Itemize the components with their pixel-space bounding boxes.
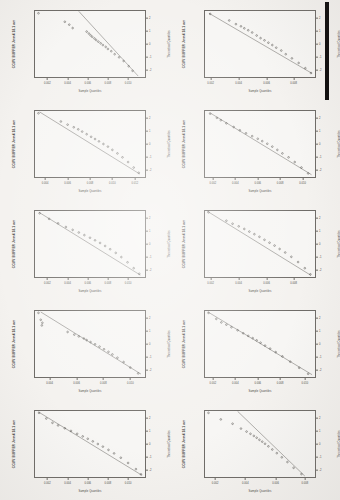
data-point xyxy=(89,237,91,239)
x-tick-label: 0.004 xyxy=(232,382,239,385)
data-point xyxy=(108,449,110,451)
reference-line xyxy=(38,412,142,475)
y-tick-label: 2 xyxy=(319,216,321,219)
data-point xyxy=(115,252,117,254)
y-tick-mark xyxy=(316,244,318,245)
data-point xyxy=(103,348,105,350)
x-tick-label: 0.008 xyxy=(105,482,112,485)
plot-data-layer xyxy=(34,110,146,178)
y-tick-label: -1 xyxy=(149,356,151,359)
data-point xyxy=(112,149,114,151)
x-tick-mark xyxy=(108,478,109,480)
data-point xyxy=(261,140,263,142)
data-point xyxy=(65,226,67,228)
y-tick-label: -2 xyxy=(319,369,321,372)
data-point xyxy=(277,149,279,151)
y-tick-label: 1 xyxy=(149,229,151,232)
data-point xyxy=(105,46,107,48)
x-tick-label: 0.002 xyxy=(212,482,219,485)
y-tick-mark xyxy=(146,444,148,445)
data-point xyxy=(268,42,270,44)
x-tick-mark xyxy=(266,78,267,80)
x-axis-label: Sample Quantiles xyxy=(34,90,146,93)
qq-plot-panel: CCMV BUFFER Jmm4 18.1 nmTheoretical Quan… xyxy=(0,300,170,400)
data-point xyxy=(271,146,273,148)
data-point xyxy=(99,346,101,348)
x-tick-label: 0.002 xyxy=(207,82,214,85)
x-tick-mark xyxy=(47,478,48,480)
y-tick-label: 2 xyxy=(319,116,321,119)
x-axis-label: Sample Quantiles xyxy=(34,390,146,393)
data-point xyxy=(70,430,72,432)
plot-data-layer xyxy=(204,110,316,178)
x-tick-label: 0.002 xyxy=(207,282,214,285)
data-point xyxy=(260,37,262,39)
plot-data-layer xyxy=(34,210,146,278)
y-tick-label: 2 xyxy=(319,316,321,319)
data-point xyxy=(41,325,43,327)
data-point xyxy=(276,452,278,454)
reference-line xyxy=(39,212,140,275)
y-tick-mark xyxy=(316,157,318,158)
y-tick-mark xyxy=(316,70,318,71)
data-point xyxy=(72,229,74,231)
y-tick-label: -2 xyxy=(319,169,321,172)
data-point xyxy=(84,234,86,236)
y-tick-label: 1 xyxy=(319,129,321,132)
y-tick-mark xyxy=(316,357,318,358)
data-point xyxy=(264,39,266,41)
y-tick-mark xyxy=(316,18,318,19)
y-tick-label: -1 xyxy=(319,356,321,359)
data-point xyxy=(226,220,228,222)
black-scan-bar xyxy=(325,2,329,100)
x-tick-mark xyxy=(235,378,236,380)
y-tick-mark xyxy=(316,444,318,445)
data-point xyxy=(91,36,93,38)
x-tick-mark xyxy=(130,378,131,380)
x-tick-label: 0.002 xyxy=(44,482,51,485)
scanned-figure-page: CCMV BUFFER Jmm4 18.1 nmTheoretical Quan… xyxy=(0,0,340,500)
data-point xyxy=(133,267,135,269)
data-point xyxy=(282,153,284,155)
data-point xyxy=(97,443,99,445)
data-point xyxy=(235,23,237,25)
plot-data-layer xyxy=(204,10,316,78)
x-tick-mark xyxy=(128,478,129,480)
x-tick-mark xyxy=(213,178,214,180)
data-point xyxy=(110,50,112,52)
y-tick-label: -2 xyxy=(149,469,151,472)
x-tick-mark xyxy=(304,378,305,380)
data-point xyxy=(254,233,256,235)
y-tick-label: 1 xyxy=(149,29,151,32)
x-tick-mark xyxy=(128,278,129,280)
data-point xyxy=(38,312,40,314)
data-point xyxy=(90,136,92,138)
data-point xyxy=(122,156,124,158)
data-point xyxy=(261,441,263,443)
x-tick-label: 0.004 xyxy=(235,82,242,85)
x-tick-label: 0.006 xyxy=(84,482,91,485)
data-point xyxy=(284,252,286,254)
x-tick-mark xyxy=(90,178,91,180)
data-point xyxy=(274,245,276,247)
x-tick-label: 0.006 xyxy=(272,482,279,485)
plot-grid: CCMV BUFFER Jmm4 18.1 nmTheoretical Quan… xyxy=(0,0,340,500)
data-point xyxy=(113,453,115,455)
data-point xyxy=(98,141,100,143)
y-tick-label: 0 xyxy=(319,243,321,246)
y-tick-mark xyxy=(316,331,318,332)
y-tick-label: 1 xyxy=(149,129,151,132)
data-point xyxy=(77,129,79,131)
data-point xyxy=(68,24,70,26)
x-tick-label: 0.008 xyxy=(277,182,284,185)
y-tick-mark xyxy=(316,318,318,319)
y-tick-mark xyxy=(146,118,148,119)
data-point xyxy=(247,29,249,31)
data-point xyxy=(121,256,123,258)
data-point xyxy=(215,318,217,320)
x-tick-label: 0.004 xyxy=(64,282,71,285)
y-tick-label: 2 xyxy=(319,416,321,419)
y-tick-mark xyxy=(146,18,148,19)
x-tick-mark xyxy=(49,378,50,380)
y-tick-label: 1 xyxy=(149,429,151,432)
